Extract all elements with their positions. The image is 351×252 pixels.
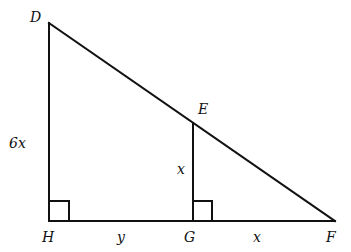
segment-label-GF: x <box>253 229 261 245</box>
segment-label-EG: x <box>177 161 185 177</box>
right-angle-marker-G <box>193 201 212 221</box>
vertex-label-E: E <box>197 101 208 117</box>
vertex-label-H: H <box>41 229 55 245</box>
right-angle-marker-H <box>49 201 69 221</box>
vertex-label-G: G <box>184 229 195 245</box>
geometry-diagram: D H E G F 6x x y x <box>0 0 351 252</box>
vertex-label-D: D <box>29 9 41 25</box>
segment-label-HG: y <box>116 229 126 245</box>
segment-label-DH: 6x <box>9 135 26 151</box>
vertex-label-F: F <box>325 229 337 245</box>
